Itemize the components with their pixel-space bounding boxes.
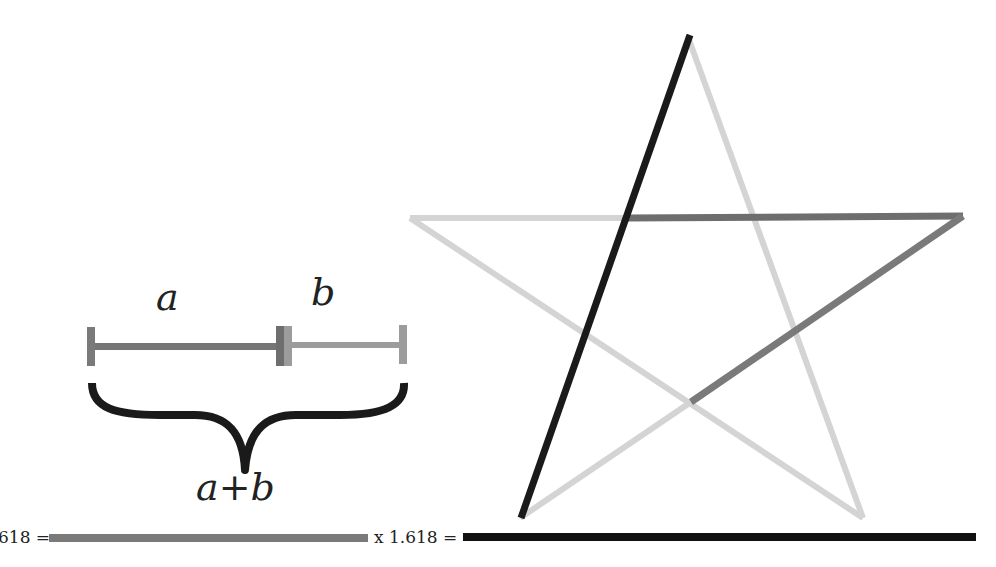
star-edge-bottom-left-to-center [520, 402, 691, 518]
segment-b-line [290, 342, 402, 348]
segment-a-line [94, 343, 278, 350]
golden-ratio-diagram [0, 0, 996, 567]
tick-middle-a [276, 326, 284, 366]
tick-left [87, 327, 95, 366]
star-edge-top-to-bottom-left [521, 35, 690, 518]
star-edge-top-to-bottom-right [688, 37, 863, 518]
curly-brace [92, 383, 404, 470]
tick-middle-b [284, 326, 292, 366]
segment-ab [87, 325, 407, 366]
star-edge-upper-right-to-center [691, 216, 963, 402]
label-a: a [156, 275, 179, 319]
equation-left-text: 618 = [0, 527, 50, 547]
bar-a [49, 534, 368, 542]
bar-a-plus-b [463, 533, 976, 541]
label-b: b [311, 270, 335, 314]
equation-middle-text: x 1.618 = [374, 527, 457, 547]
pentagram [410, 35, 963, 518]
label-a-plus-b: a+b [196, 465, 275, 509]
tick-right [399, 325, 407, 364]
star-edge-horizontal-dark [628, 216, 963, 218]
star-edge-upper-left-to-bottom-right [410, 218, 863, 518]
